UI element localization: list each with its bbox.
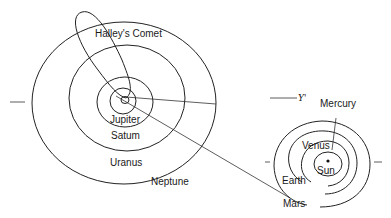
inner-system: Υ' Mercury Venus Sun Earth Mars <box>265 93 382 209</box>
uranus-label: Uranus <box>110 157 142 168</box>
jupiter-orbit <box>110 88 136 114</box>
earth-label: Earth <box>282 175 306 186</box>
mercury-label: Mercury <box>320 98 356 109</box>
vernal-equinox-symbol: Υ' <box>298 93 306 103</box>
sun-label: Sun <box>317 165 335 176</box>
halleys-comet-label: Halley's Comet <box>95 28 162 39</box>
saturn-label: Satum <box>111 130 140 141</box>
halleys-comet-orbit <box>75 12 130 98</box>
jupiter-label: Jupiter <box>110 114 141 125</box>
mars-label: Mars <box>283 198 305 209</box>
venus-label: Venus <box>302 140 330 151</box>
outer-system: Halley's Comet Jupiter Satum Uranus Nept… <box>10 12 290 198</box>
mercury-pointer <box>332 118 336 150</box>
sun-dot <box>326 159 329 162</box>
mars-orbit <box>274 121 370 207</box>
reference-line-right <box>126 97 216 104</box>
solar-system-diagram: Halley's Comet Jupiter Satum Uranus Nept… <box>0 0 391 218</box>
neptune-label: Neptune <box>151 176 189 187</box>
